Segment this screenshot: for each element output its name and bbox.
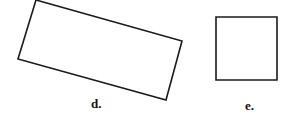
figure-canvas <box>0 0 285 117</box>
label-d: d. <box>91 97 101 110</box>
rectangle-d <box>18 0 182 100</box>
label-e: e. <box>245 99 254 112</box>
square-e <box>216 17 277 80</box>
